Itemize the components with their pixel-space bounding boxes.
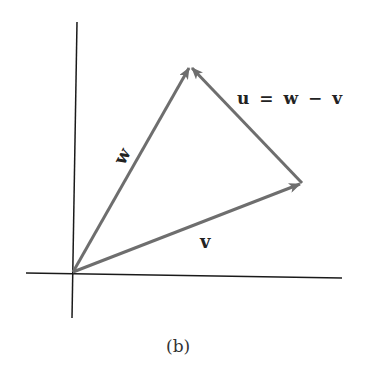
label-v: v	[199, 231, 211, 252]
label-u-equals-w-minus-v: u = w − v	[237, 88, 344, 108]
vector-u	[192, 68, 302, 183]
vector-v	[73, 184, 300, 272]
label-w: w	[109, 144, 136, 169]
vector-w	[73, 68, 189, 272]
vector-diagram: w v u = w − v (b)	[0, 0, 374, 386]
figure-caption: (b)	[166, 336, 190, 356]
